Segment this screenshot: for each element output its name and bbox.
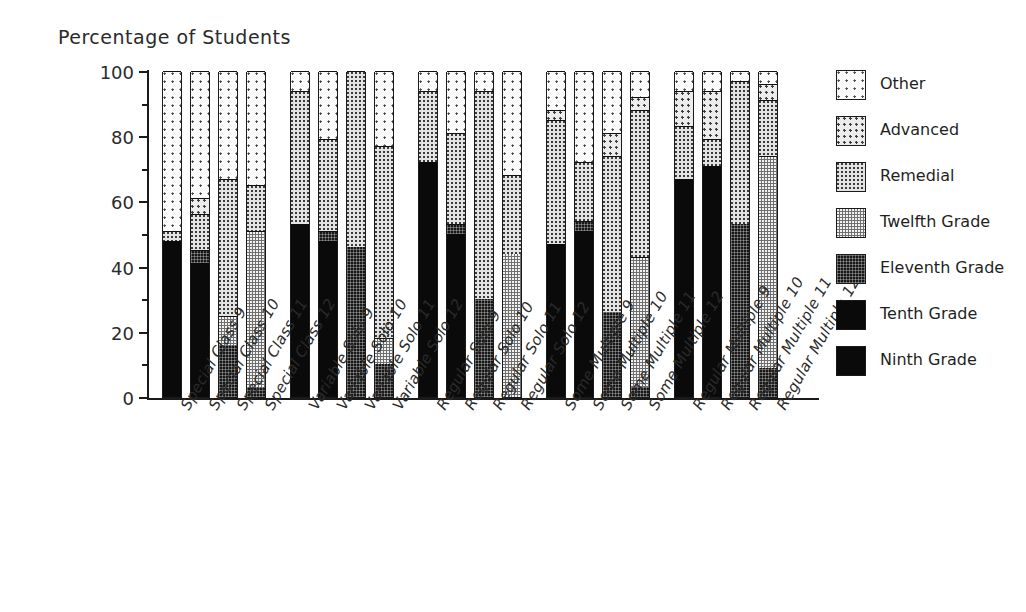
- legend-label-ninth-grade: Ninth Grade: [880, 350, 977, 369]
- legend-swatch-tenth-grade: [836, 300, 866, 330]
- segment-other: [631, 71, 649, 97]
- segment-remedial: [703, 139, 721, 165]
- segment-remedial: [503, 175, 521, 253]
- y-minor-tick-50: [142, 234, 148, 236]
- segment-other: [447, 71, 465, 133]
- legend-swatch-twelfth-grade: [836, 208, 866, 238]
- segment-advanced: [675, 91, 693, 127]
- segment-remedial: [603, 156, 621, 312]
- y-tick-0: [139, 397, 148, 399]
- y-minor-tick-90: [142, 104, 148, 106]
- y-tick-label-40: 40: [111, 257, 134, 278]
- y-tick-label-100: 100: [100, 62, 134, 83]
- segment-remedial: [291, 91, 309, 225]
- y-tick-label-20: 20: [111, 322, 134, 343]
- y-minor-tick-30: [142, 299, 148, 301]
- segment-advanced: [547, 110, 565, 120]
- segment-remedial: [675, 126, 693, 178]
- segment-eleventh-grade: [319, 231, 337, 241]
- segment-other: [191, 71, 209, 198]
- segment-advanced: [631, 97, 649, 110]
- segment-other: [575, 71, 593, 162]
- segment-remedial: [475, 91, 493, 300]
- y-tick-label-60: 60: [111, 192, 134, 213]
- segment-other: [475, 71, 493, 91]
- y-tick-label-0: 0: [123, 388, 134, 409]
- segment-other: [291, 71, 309, 91]
- segment-other: [675, 71, 693, 91]
- legend-swatch-ninth-grade: [836, 346, 866, 376]
- segment-other: [163, 71, 181, 231]
- segment-remedial: [419, 91, 437, 163]
- legend-item-advanced[interactable]: Advanced: [836, 116, 1016, 162]
- segment-advanced: [703, 91, 721, 140]
- segment-other: [375, 71, 393, 146]
- y-tick-label-80: 80: [111, 127, 134, 148]
- chart-root: Percentage of Students 020406080100 Spec…: [0, 0, 1026, 612]
- segment-eleventh-grade: [191, 250, 209, 263]
- legend-item-twelfth-grade[interactable]: Twelfth Grade: [836, 208, 1016, 254]
- y-tick-40: [139, 267, 148, 269]
- legend-item-remedial[interactable]: Remedial: [836, 162, 1016, 208]
- legend-label-remedial: Remedial: [880, 166, 955, 185]
- segment-remedial: [163, 231, 181, 241]
- segment-eleventh-grade: [575, 221, 593, 231]
- legend-item-ninth-grade[interactable]: Ninth Grade: [836, 346, 1016, 392]
- bar-variable-solo-10[interactable]: [318, 72, 338, 398]
- segment-other: [731, 71, 749, 81]
- bar-regular-multiple-10[interactable]: [702, 72, 722, 398]
- segment-ninth-grade: [163, 241, 181, 397]
- segment-other: [219, 71, 237, 179]
- bar-special-class-10[interactable]: [190, 72, 210, 398]
- y-tick-80: [139, 136, 148, 138]
- chart-legend: OtherAdvancedRemedialTwelfth GradeEleven…: [836, 70, 1016, 392]
- segment-remedial: [191, 214, 209, 250]
- legend-swatch-other: [836, 70, 866, 100]
- segment-other: [759, 71, 777, 84]
- segment-other: [247, 71, 265, 185]
- legend-label-tenth-grade: Tenth Grade: [880, 304, 977, 323]
- chart-title: Percentage of Students: [58, 26, 291, 48]
- legend-swatch-remedial: [836, 162, 866, 192]
- segment-advanced: [603, 133, 621, 156]
- y-tick-100: [139, 71, 148, 73]
- y-minor-tick-10: [142, 364, 148, 366]
- segment-advanced: [759, 84, 777, 100]
- legend-label-other: Other: [880, 74, 925, 93]
- x-axis-labels: Special Class 9Special Class 10Special C…: [148, 404, 828, 604]
- segment-remedial: [347, 71, 365, 247]
- legend-swatch-advanced: [836, 116, 866, 146]
- y-tick-60: [139, 201, 148, 203]
- legend-item-eleventh-grade[interactable]: Eleventh Grade: [836, 254, 1016, 300]
- segment-remedial: [759, 100, 777, 155]
- segment-other: [703, 71, 721, 91]
- segment-remedial: [247, 185, 265, 231]
- segment-other: [319, 71, 337, 139]
- segment-remedial: [731, 81, 749, 224]
- bar-regular-solo-10[interactable]: [446, 72, 466, 398]
- segment-other: [503, 71, 521, 175]
- bar-special-class-9[interactable]: [162, 72, 182, 398]
- segment-remedial: [447, 133, 465, 224]
- legend-label-twelfth-grade: Twelfth Grade: [880, 212, 990, 231]
- legend-item-other[interactable]: Other: [836, 70, 1016, 116]
- segment-other: [547, 71, 565, 110]
- segment-remedial: [319, 139, 337, 230]
- segment-eleventh-grade: [447, 224, 465, 234]
- segment-other: [419, 71, 437, 91]
- legend-item-tenth-grade[interactable]: Tenth Grade: [836, 300, 1016, 346]
- segment-remedial: [219, 179, 237, 316]
- segment-remedial: [631, 110, 649, 257]
- y-tick-20: [139, 332, 148, 334]
- segment-remedial: [547, 120, 565, 244]
- legend-label-advanced: Advanced: [880, 120, 959, 139]
- bar-some-multiple-10[interactable]: [574, 72, 594, 398]
- segment-advanced: [191, 198, 209, 214]
- legend-swatch-eleventh-grade: [836, 254, 866, 284]
- segment-remedial: [575, 162, 593, 221]
- y-minor-tick-70: [142, 169, 148, 171]
- segment-other: [603, 71, 621, 133]
- legend-label-eleventh-grade: Eleventh Grade: [880, 258, 1004, 277]
